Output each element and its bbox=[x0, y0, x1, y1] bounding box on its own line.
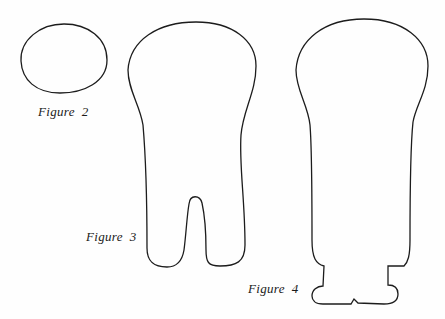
figure-4-outline bbox=[296, 19, 428, 304]
figures-canvas bbox=[0, 0, 445, 319]
figure-2-caption: Figure 2 bbox=[38, 104, 89, 120]
figure-2-oval-outline bbox=[21, 24, 107, 93]
figure-4-caption: Figure 4 bbox=[248, 281, 299, 297]
figure-3-outline bbox=[128, 22, 256, 267]
figure-3-caption: Figure 3 bbox=[86, 229, 137, 245]
document-page: Figure 2 Figure 3 Figure 4 bbox=[0, 0, 445, 319]
